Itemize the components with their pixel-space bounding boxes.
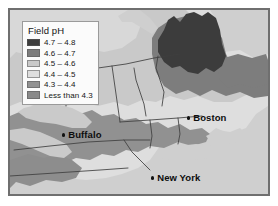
city-marker-new-york: New York	[151, 173, 200, 183]
legend-swatch-4-5-4-6	[27, 60, 40, 68]
legend-swatch-4-7-4-8	[27, 39, 40, 47]
legend-box: Field pH 4.7 – 4.8 4.6 – 4.7 4.5 – 4.6 4…	[22, 21, 99, 105]
legend-label-4-6-4-7: 4.6 – 4.7	[44, 49, 76, 58]
legend-swatch-4-6-4-7	[27, 49, 40, 57]
city-marker-buffalo: Buffalo	[62, 130, 102, 140]
legend-swatch-less-than-4-3	[27, 91, 40, 99]
legend-item-4-5-4-6: 4.5 – 4.6	[27, 59, 94, 69]
legend-item-4-6-4-7: 4.6 – 4.7	[27, 48, 94, 58]
map-frame: Field pH 4.7 – 4.8 4.6 – 4.7 4.5 – 4.6 4…	[8, 8, 270, 196]
city-label-buffalo: Buffalo	[68, 130, 101, 140]
legend-item-4-3-4-4: 4.3 – 4.4	[27, 80, 94, 90]
legend-item-4-4-4-5: 4.4 – 4.5	[27, 69, 94, 79]
city-label-boston: Boston	[193, 113, 226, 123]
region-ph-4-7-to-4-8	[158, 12, 226, 74]
legend-title: Field pH	[28, 25, 94, 36]
city-dot-icon	[151, 176, 154, 179]
region-northeast-coast-band	[218, 54, 268, 88]
legend-label-4-7-4-8: 4.7 – 4.8	[44, 38, 76, 47]
legend-label-4-3-4-4: 4.3 – 4.4	[44, 80, 76, 89]
city-label-new-york: New York	[157, 173, 200, 183]
legend-label-less-than-4-3: Less than 4.3	[44, 91, 93, 100]
legend-swatch-4-4-4-5	[27, 70, 40, 78]
legend-label-4-4-4-5: 4.4 – 4.5	[44, 70, 76, 79]
legend-label-4-5-4-6: 4.5 – 4.6	[44, 59, 76, 68]
field-ph-map-figure: Field pH 4.7 – 4.8 4.6 – 4.7 4.5 – 4.6 4…	[0, 0, 278, 206]
legend-swatch-4-3-4-4	[27, 81, 40, 89]
legend-item-4-7-4-8: 4.7 – 4.8	[27, 38, 94, 48]
city-dot-icon	[187, 116, 190, 119]
city-dot-icon	[62, 133, 65, 136]
city-marker-boston: Boston	[187, 113, 227, 123]
legend-item-less-than-4-3: Less than 4.3	[27, 90, 94, 100]
